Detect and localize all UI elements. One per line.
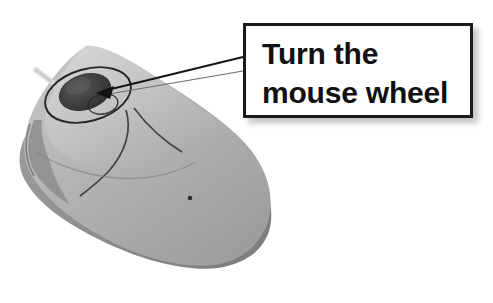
- callout-box: Turn the mouse wheel: [243, 23, 473, 118]
- mouse-sensor-dot: [188, 196, 193, 201]
- figure-canvas: Turn the mouse wheel: [0, 0, 493, 303]
- callout-line-2: mouse wheel: [262, 73, 448, 112]
- callout-text: Turn the mouse wheel: [262, 34, 448, 112]
- mouse-cable-stub: [36, 70, 52, 82]
- callout-line-1: Turn the: [262, 37, 378, 70]
